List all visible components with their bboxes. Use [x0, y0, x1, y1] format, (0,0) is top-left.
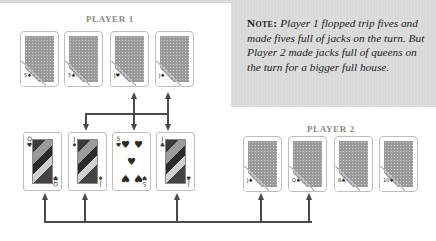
jack-figure-icon: [165, 139, 186, 184]
heart-pip-icon: ♥: [127, 157, 136, 167]
card-index: Q♥: [52, 175, 59, 187]
peek-index: J♠: [247, 177, 253, 183]
peek-index: J♥: [114, 72, 120, 78]
player2-card-4: 10♦: [379, 136, 418, 192]
player2-label: PLAYER 2: [307, 124, 355, 134]
connector-line: [133, 98, 135, 124]
peek-index: Q♠: [292, 177, 300, 183]
connector-line: [308, 200, 310, 222]
peek-index: 8♣: [338, 177, 346, 183]
connector-line: [84, 200, 86, 222]
board-card-1: Q♥ Q♥: [23, 132, 62, 191]
peek-index: 5♦: [24, 72, 32, 78]
arrow-down-icon: [83, 124, 89, 131]
card-index: J♣: [185, 175, 192, 187]
player1-card-4: J♠: [155, 31, 194, 87]
player2-card-3: 8♣: [334, 136, 373, 192]
board-card-4: J♣ J♣: [156, 132, 195, 191]
player1-card-2: 5♠: [64, 31, 103, 87]
connector-line: [167, 98, 169, 124]
connector-line: [176, 200, 178, 222]
arrow-up-icon: [306, 193, 312, 200]
arrow-down-icon: [131, 124, 137, 131]
heart-pip-icon: ♥: [134, 140, 143, 150]
queen-figure-icon: [32, 139, 53, 184]
card-index: J♦: [97, 175, 104, 187]
card-index: 5♥: [141, 175, 148, 187]
connector-line: [260, 200, 262, 222]
arrow-up-icon: [82, 193, 88, 200]
note-box: Note: Player 1 flopped trip fives and ma…: [231, 0, 436, 107]
player2-card-2: Q♠: [288, 136, 327, 192]
connector-line: [85, 113, 87, 124]
connector-line: [85, 113, 169, 115]
note-label: Note:: [247, 17, 277, 29]
player2-card-1: J♠: [243, 136, 282, 192]
heart-pip-icon: ♥: [121, 173, 130, 183]
connector-line: [44, 200, 46, 222]
jack-figure-icon: [77, 139, 98, 184]
heart-pip-icon: ♥: [121, 140, 130, 150]
arrow-up-icon: [42, 193, 48, 200]
arrow-up-icon: [174, 193, 180, 200]
player1-card-3: J♥: [110, 31, 149, 87]
player1-card-1: 5♦: [20, 31, 59, 87]
player1-label: PLAYER 1: [86, 14, 134, 24]
peek-index: 5♠: [68, 72, 76, 78]
board-card-3: 5♥ ♥ ♥ ♥ ♥ ♥ 5♥: [112, 132, 151, 191]
arrow-up-icon: [258, 193, 264, 200]
top-stripe: [0, 0, 231, 3]
board-card-2: J♦ J♦: [68, 132, 107, 191]
peek-index: J♠: [159, 72, 165, 78]
peek-index: 10♦: [383, 177, 394, 183]
note-text: Note: Player 1 flopped trip fives and ma…: [247, 16, 432, 74]
arrow-down-icon: [165, 124, 171, 131]
